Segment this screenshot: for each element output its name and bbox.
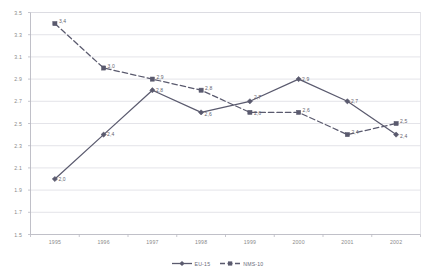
plot-area bbox=[0, 0, 434, 271]
y-tick-label: 1.9 bbox=[2, 187, 22, 193]
gridlines bbox=[31, 13, 421, 213]
legend-label: EU-15 bbox=[195, 261, 211, 267]
data-label: 2,6 bbox=[254, 110, 261, 116]
y-tick-label: 2.1 bbox=[2, 165, 22, 171]
x-tick-label: 1996 bbox=[89, 239, 119, 245]
chart-container: 1.51.71.92.12.32.52.72.93.13.33.5 199519… bbox=[0, 0, 434, 271]
data-label: 2,8 bbox=[156, 87, 163, 93]
chart-legend: EU-15NMS-10 bbox=[0, 260, 434, 267]
y-tick-label: 2.5 bbox=[2, 121, 22, 127]
data-label: 2,4 bbox=[351, 129, 358, 135]
y-tick-label: 3.3 bbox=[2, 32, 22, 38]
series-eu-15 bbox=[52, 77, 398, 182]
data-label: 2,7 bbox=[254, 94, 261, 100]
y-tick-label: 1.5 bbox=[2, 232, 22, 238]
data-label: 2,4 bbox=[400, 133, 407, 139]
y-tick-label: 2.3 bbox=[2, 143, 22, 149]
x-tick-label: 1998 bbox=[186, 239, 216, 245]
y-tick-label: 3.1 bbox=[2, 54, 22, 60]
data-label: 2,8 bbox=[205, 85, 212, 91]
data-label: 2,6 bbox=[303, 107, 310, 113]
x-tick-label: 2000 bbox=[284, 239, 314, 245]
data-label: 2,5 bbox=[400, 118, 407, 124]
x-tick-label: 2001 bbox=[332, 239, 362, 245]
data-label: 2,9 bbox=[156, 74, 163, 80]
data-label: 2,6 bbox=[205, 111, 212, 117]
y-tick-label: 3.5 bbox=[2, 10, 22, 16]
legend-diamond-marker-icon bbox=[171, 260, 193, 267]
legend-item-nms-10[interactable]: NMS-10 bbox=[219, 260, 263, 267]
data-label: 2,4 bbox=[107, 131, 114, 137]
legend-square-marker-icon bbox=[219, 260, 241, 267]
legend-item-eu-15[interactable]: EU-15 bbox=[171, 260, 211, 267]
x-tick-label: 1995 bbox=[40, 239, 70, 245]
x-tick-label: 2002 bbox=[381, 239, 411, 245]
data-label: 2,9 bbox=[302, 76, 309, 82]
data-label: 3,4 bbox=[59, 18, 66, 24]
data-label: 2,7 bbox=[351, 98, 358, 104]
x-tick-label: 1999 bbox=[235, 239, 265, 245]
y-tick-label: 2.9 bbox=[2, 76, 22, 82]
data-label: 2,0 bbox=[58, 176, 65, 182]
y-tick-label: 2.7 bbox=[2, 98, 22, 104]
data-label: 3,0 bbox=[108, 63, 115, 69]
legend-label: NMS-10 bbox=[243, 261, 263, 267]
x-tick-label: 1997 bbox=[137, 239, 167, 245]
y-tick-label: 1.7 bbox=[2, 209, 22, 215]
